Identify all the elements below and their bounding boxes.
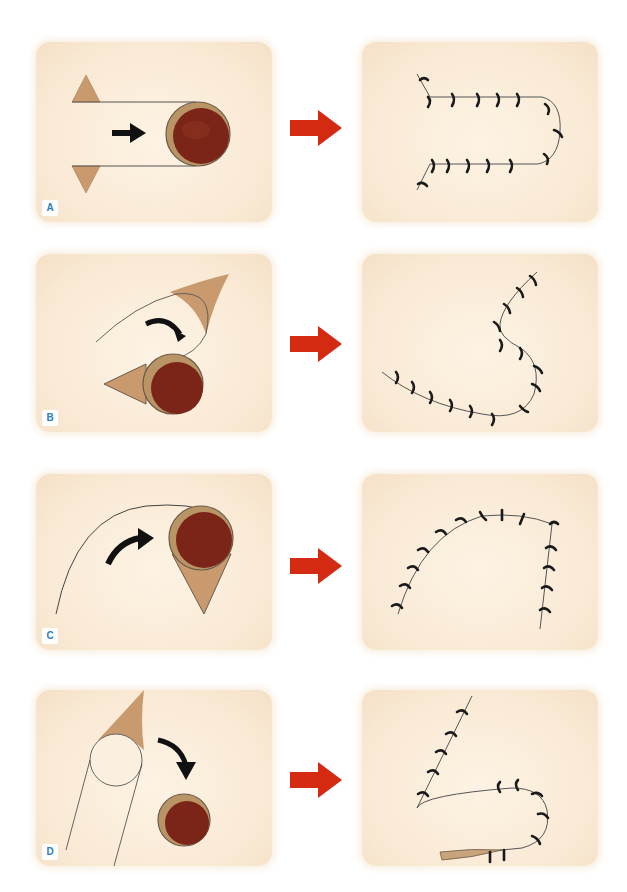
sutures <box>396 276 542 425</box>
panel-b-after <box>362 254 598 432</box>
red-arrow-icon <box>290 762 342 798</box>
panel-c-after <box>362 474 598 650</box>
sutures <box>418 78 562 186</box>
arrow-right-icon <box>112 123 146 143</box>
red-arrow-icon <box>290 110 342 146</box>
panel-label-c: C <box>42 628 58 644</box>
transposition-flap-diagram <box>36 690 272 866</box>
burow-triangle-bottom <box>72 166 100 193</box>
sutured-rotation <box>362 254 598 432</box>
rotation-flap-diagram <box>36 254 272 432</box>
dog-ear-excision <box>440 849 502 860</box>
panel-b-before: B <box>36 254 272 432</box>
sutured-advancement <box>362 42 598 222</box>
red-arrow-icon <box>290 548 342 584</box>
panel-a-before: A <box>36 42 272 222</box>
defect-circle <box>165 801 209 845</box>
sutured-rotation-arc <box>362 474 598 650</box>
curved-arrow-icon <box>108 538 140 564</box>
burow-triangle-top <box>72 75 100 102</box>
panel-label-a: A <box>42 200 58 216</box>
defect-circle <box>151 362 203 414</box>
advancement-flap-diagram <box>36 42 272 222</box>
panel-label-d: D <box>42 844 58 860</box>
red-arrow-icon <box>290 326 342 362</box>
panel-d-after <box>362 690 598 866</box>
sutures <box>392 510 558 612</box>
sutured-transposition <box>362 690 598 866</box>
panel-a-after <box>362 42 598 222</box>
panel-d-before: D <box>36 690 272 866</box>
panel-c-before: C <box>36 474 272 650</box>
panel-label-b: B <box>42 410 58 426</box>
sutures <box>418 710 548 862</box>
rotation-triangle-diagram <box>36 474 272 650</box>
defect-circle <box>176 512 232 568</box>
